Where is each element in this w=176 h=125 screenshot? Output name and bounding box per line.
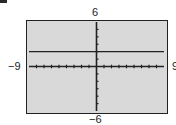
x-min-label: −9	[8, 61, 21, 72]
graph-plot	[0, 0, 176, 125]
x-max-label: 9	[172, 61, 176, 72]
axes	[29, 22, 164, 111]
y-min-label: −6	[89, 114, 102, 125]
y-max-label: 6	[92, 7, 98, 18]
